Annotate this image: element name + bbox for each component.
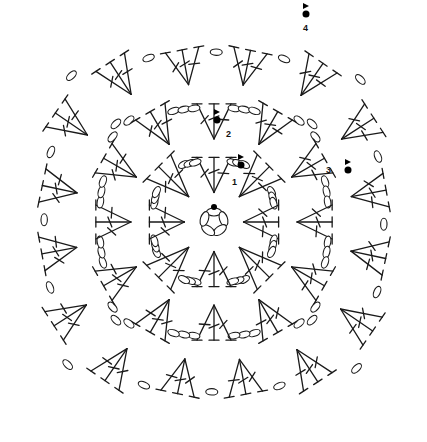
cross-icon — [199, 270, 210, 271]
chain-icon — [354, 73, 367, 86]
treble-top-icon — [224, 396, 234, 398]
chain-icon — [137, 380, 151, 391]
cross-icon — [259, 183, 267, 191]
fan-stitch-icon — [143, 151, 189, 197]
chain-icon — [372, 285, 383, 299]
chain-icon — [381, 218, 388, 230]
fan-stitch-icon — [229, 46, 272, 85]
cross-icon — [252, 177, 262, 181]
chain-icon — [188, 104, 201, 112]
treble-top-icon — [370, 327, 376, 335]
fan-stitch-icon — [256, 101, 297, 145]
treble-icon — [65, 99, 87, 135]
cross-icon — [228, 380, 239, 381]
treble-top-icon — [314, 379, 322, 384]
treble-icon — [214, 252, 231, 287]
cross-icon — [108, 228, 116, 235]
treble-top-icon — [273, 109, 282, 114]
treble-icon — [259, 120, 293, 144]
treble-icon — [91, 349, 127, 371]
round-number-label: 4 — [303, 23, 308, 33]
cross-icon — [152, 319, 163, 321]
cross-icon — [311, 273, 313, 284]
chain-icon — [206, 389, 218, 396]
chain-icon — [309, 300, 322, 313]
treble-icon — [301, 73, 337, 95]
cross-icon — [259, 209, 267, 216]
treble-top-icon — [241, 393, 251, 395]
chain-icon — [306, 117, 319, 130]
treble-top-icon — [194, 46, 204, 48]
chain-icon — [109, 117, 122, 130]
fan-stitch-icon — [143, 247, 189, 293]
treble-top-icon — [167, 151, 174, 158]
cross-icon — [175, 379, 186, 381]
fan-stitch-icon — [87, 349, 128, 394]
chain-icon — [306, 314, 319, 327]
treble-icon — [136, 300, 170, 324]
round-number-label: 1 — [232, 177, 237, 187]
treble-icon — [342, 104, 365, 139]
cross-icon — [242, 63, 253, 65]
slip-stitch-marker-icon — [345, 167, 352, 174]
crochet-chart: 1234 — [0, 0, 427, 442]
treble-top-icon — [388, 202, 390, 212]
stitch-rounds — [38, 46, 390, 398]
treble-icon — [244, 205, 279, 222]
cross-icon — [220, 320, 227, 328]
treble-top-icon — [101, 154, 106, 163]
cross-icon — [201, 116, 208, 124]
fan-stitch-icon — [156, 359, 199, 398]
cross-icon — [175, 170, 183, 178]
treble-icon — [96, 71, 131, 94]
chain-icon — [177, 274, 191, 285]
treble-top-icon — [143, 262, 150, 269]
chain-icon — [98, 175, 108, 188]
fan-stitch-icon — [256, 300, 296, 344]
treble-icon — [63, 305, 86, 340]
treble-top-icon — [143, 175, 150, 182]
treble-top-icon — [382, 168, 384, 178]
round-3 — [38, 46, 390, 398]
fan-stitch-icon — [131, 101, 171, 145]
treble-top-icon — [322, 281, 327, 290]
chain-icon — [320, 256, 330, 269]
chain-icon — [273, 381, 287, 391]
chain-icon — [109, 314, 122, 327]
treble-icon — [149, 222, 184, 239]
treble-top-icon — [385, 185, 387, 195]
chain-icon — [122, 317, 135, 330]
treble-icon — [297, 205, 332, 222]
fan-stitch-icon — [160, 46, 203, 85]
slip-stitch-marker-icon — [238, 162, 245, 169]
chain-icon — [210, 49, 222, 56]
center-ring — [198, 204, 229, 238]
fan-stitch-icon — [93, 139, 137, 180]
treble-top-icon — [38, 232, 40, 242]
treble-icon — [292, 267, 316, 301]
fan-stitch-icon — [296, 350, 336, 394]
cross-icon — [111, 207, 112, 218]
cross-icon — [55, 183, 57, 194]
treble-icon — [112, 144, 136, 178]
cross-icon — [166, 263, 176, 267]
fan-stitch-icon — [92, 50, 132, 94]
treble-top-icon — [106, 59, 114, 64]
crochet-diagram-svg: 1234 — [0, 0, 427, 442]
treble-top-icon — [278, 262, 285, 269]
treble-top-icon — [167, 286, 174, 293]
chain-icon — [167, 328, 180, 338]
treble-top-icon — [273, 330, 282, 335]
cross-icon — [201, 169, 208, 177]
treble-top-icon — [254, 151, 261, 158]
treble-top-icon — [51, 322, 56, 330]
cross-icon — [189, 63, 200, 64]
chain-icon — [41, 214, 48, 226]
treble-icon — [159, 247, 189, 277]
cross-icon — [316, 226, 317, 237]
treble-top-icon — [258, 390, 268, 392]
cross-icon — [262, 226, 263, 237]
chain-icon — [198, 211, 210, 228]
treble-icon — [214, 305, 231, 340]
treble-icon — [39, 237, 77, 247]
